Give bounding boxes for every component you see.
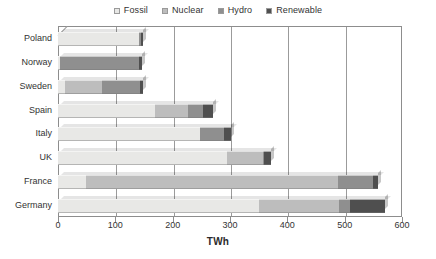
y-tick-label-sweden: Sweden <box>19 82 52 91</box>
bar-spain[interactable] <box>58 104 213 118</box>
x-tick-label-200: 200 <box>165 221 180 230</box>
bar-segment-spain-renewable <box>203 104 213 118</box>
bar-segment-spain-nuclear <box>155 104 188 118</box>
x-tick-label-300: 300 <box>222 221 237 230</box>
bar-segment-france-renewable <box>373 175 378 189</box>
bar-segment-france-nuclear <box>86 175 338 189</box>
bar-segment-norway-hydro <box>60 56 139 70</box>
bar-segment-uk-nuclear <box>227 151 263 165</box>
x-tick-label-100: 100 <box>108 221 123 230</box>
bar-segment-germany-renewable <box>350 199 384 213</box>
bar-segment-sweden-fossil <box>58 80 65 94</box>
bar-segment-sweden-hydro <box>102 80 140 94</box>
bar-segment-poland-fossil <box>58 32 139 46</box>
y-axis-labels: PolandNorwaySwedenSpainItalyUKFranceGerm… <box>0 26 54 217</box>
x-axis-labels: 0100200300400500600 <box>0 221 436 235</box>
bar-norway[interactable] <box>58 56 142 70</box>
y-tick-label-poland: Poland <box>24 34 52 43</box>
bar-poland[interactable] <box>58 32 143 46</box>
bar-segment-germany-fossil <box>58 199 259 213</box>
bar-segment-italy-hydro <box>200 127 224 141</box>
bar-segment-germany-hydro <box>339 199 350 213</box>
bar-segment-italy-fossil <box>58 127 200 141</box>
x-tick-label-400: 400 <box>280 221 295 230</box>
y-tick-label-italy: Italy <box>35 129 52 138</box>
y-tick-label-spain: Spain <box>29 106 52 115</box>
bar-segment-italy-renewable <box>224 127 231 141</box>
bar-segment-norway-renewable <box>139 56 142 70</box>
y-tick-label-norway: Norway <box>21 58 52 67</box>
x-tick-label-500: 500 <box>337 221 352 230</box>
bar-segment-germany-nuclear <box>259 199 339 213</box>
bar-segment-uk-fossil <box>58 151 227 165</box>
x-axis-title: TWh <box>0 236 436 247</box>
bar-segment-france-fossil <box>58 175 86 189</box>
y-tick-label-uk: UK <box>39 153 52 162</box>
bar-france[interactable] <box>58 175 378 189</box>
bar-uk[interactable] <box>58 151 271 165</box>
bar-segment-uk-renewable <box>264 151 271 165</box>
bar-sweden[interactable] <box>58 80 143 94</box>
bar-germany[interactable] <box>58 199 385 213</box>
bar-segment-sweden-nuclear <box>65 80 102 94</box>
y-tick-label-france: France <box>24 177 52 186</box>
y-tick-label-germany: Germany <box>15 201 52 210</box>
bar-segment-sweden-renewable <box>140 80 143 94</box>
x-tick-label-0: 0 <box>55 221 60 230</box>
stacked-bar-chart: FossilNuclearHydroRenewable PolandNorway… <box>0 0 436 259</box>
bar-segment-poland-renewable <box>141 32 143 46</box>
bar-italy[interactable] <box>58 127 231 141</box>
x-tick-label-600: 600 <box>394 221 409 230</box>
bar-segment-spain-fossil <box>58 104 155 118</box>
bar-segment-spain-hydro <box>188 104 203 118</box>
bar-segment-france-hydro <box>338 175 374 189</box>
